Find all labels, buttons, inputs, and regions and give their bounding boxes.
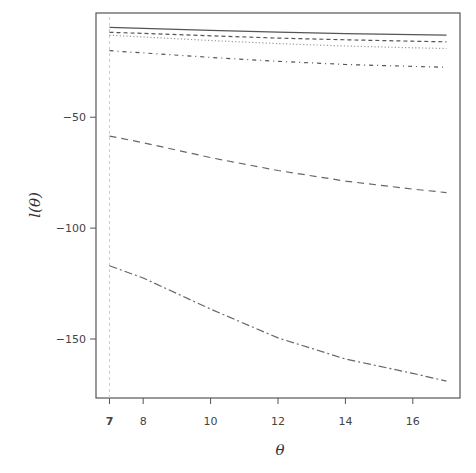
series-short-dashed xyxy=(110,32,447,42)
series-dot-dashed-upper xyxy=(110,51,447,68)
y-tick-label: −150 xyxy=(56,333,86,346)
x-axis-title: θ xyxy=(275,441,284,459)
x-tick-label: 10 xyxy=(204,415,218,428)
y-tick-label: −50 xyxy=(63,111,86,124)
line-chart: 7810121416 −50−100−150 θ l(θ) xyxy=(0,0,476,473)
x-tick-label: 8 xyxy=(140,415,147,428)
series-dot-dashed-lower xyxy=(110,266,447,381)
x-tick-label: 7 xyxy=(106,415,114,428)
y-axis: −50−100−150 xyxy=(56,111,96,346)
y-axis-title: l(θ) xyxy=(26,192,44,218)
x-tick-label: 16 xyxy=(406,415,420,428)
plot-frame xyxy=(96,13,460,398)
series-layer xyxy=(109,17,446,398)
series-dotted xyxy=(110,35,447,48)
x-tick-label: 14 xyxy=(338,415,352,428)
x-tick-label: 12 xyxy=(271,415,285,428)
x-axis: 7810121416 xyxy=(106,398,420,428)
series-long-dashed xyxy=(110,136,447,193)
y-tick-label: −100 xyxy=(56,222,86,235)
